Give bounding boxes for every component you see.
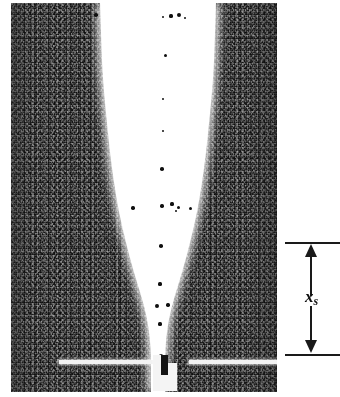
plume-speck	[158, 322, 161, 325]
plume-speck	[159, 244, 163, 248]
plume-speck	[131, 206, 134, 209]
plume-speck	[160, 204, 163, 207]
plume-speck	[164, 54, 167, 57]
plume-speck	[160, 167, 164, 171]
plume-speck	[177, 206, 180, 209]
plume-speck	[169, 14, 172, 17]
plume-speck	[155, 304, 159, 308]
dimension-label: xs	[283, 288, 340, 310]
dimension-label-subscript: s	[313, 294, 318, 308]
plume-speck	[158, 282, 161, 285]
substrate-line-left	[59, 360, 166, 364]
plume-speck	[166, 303, 169, 306]
plume-speck	[94, 13, 98, 17]
substrate-line-right	[189, 360, 277, 364]
figure-root: xs	[0, 0, 340, 397]
dimension-tick-bottom	[285, 354, 340, 356]
plume-speck	[170, 202, 173, 205]
dimension-annotation: xs	[283, 238, 340, 360]
plume-photograph	[11, 3, 277, 392]
nozzle-gap	[161, 355, 168, 375]
arrow-down-icon	[305, 340, 317, 353]
photo-edge-shading	[11, 3, 277, 392]
plume-speck	[189, 207, 192, 210]
